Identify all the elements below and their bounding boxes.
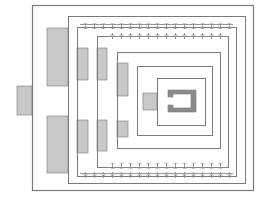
crenellation-bottom-outer (80, 172, 233, 178)
crenellation-top-outer (80, 23, 233, 29)
central-sanctum (168, 90, 196, 112)
hall-block (77, 120, 88, 153)
hall-block (47, 28, 68, 86)
pillared-halls (17, 28, 157, 173)
crenellation-bottom-inner (106, 163, 226, 169)
hall-block (47, 116, 68, 173)
enclosure-wall-7 (158, 79, 206, 126)
entrance-gateway (17, 86, 32, 115)
temple-floor-plan (0, 0, 260, 206)
hall-block (143, 93, 157, 110)
hall-block (117, 121, 128, 137)
hall-block (97, 48, 107, 80)
hall-block (97, 120, 107, 151)
hall-block (117, 63, 128, 96)
crenellation-top-inner (106, 33, 226, 39)
hall-block (77, 48, 88, 80)
